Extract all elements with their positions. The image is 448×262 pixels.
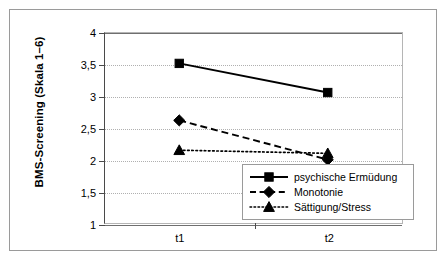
legend-item-label: psychische Ermüdung: [294, 171, 397, 183]
x-axis-tick: [255, 223, 256, 229]
y-axis-tick-label: 2: [90, 155, 96, 167]
y-axis-tick: [99, 225, 105, 226]
data-point-marker: [324, 88, 332, 96]
series-line: [179, 150, 328, 153]
data-point-marker: [175, 59, 183, 67]
y-axis-tick-label: 1: [90, 219, 96, 231]
y-axis-tick-label: 2,5: [81, 123, 96, 135]
legend-item-label: Monotonie: [294, 186, 343, 198]
data-point-marker: [322, 148, 333, 158]
legend-item: psychische Ermüdung: [249, 169, 407, 184]
legend-swatch-icon: [249, 200, 289, 214]
series-monotonie: [174, 115, 334, 165]
figure-frame: BMS-Screening (Skala 1–6) 11,522,533,54 …: [9, 9, 437, 251]
legend-item: Sättigung/Stress: [249, 199, 407, 214]
data-point-marker: [174, 115, 185, 126]
series-line: [179, 63, 328, 92]
gridline: [105, 225, 402, 226]
y-axis-tick-label: 4: [90, 27, 96, 39]
series-psychische-erm-dung: [175, 59, 332, 96]
x-axis-tick-label-t1: t1: [175, 232, 184, 244]
chart-legend: psychische ErmüdungMonotonieSättigung/St…: [242, 164, 414, 220]
line-chart: BMS-Screening (Skala 1–6) 11,522,533,54 …: [10, 10, 438, 252]
series-s-ttigung-stress: [174, 145, 333, 158]
legend-swatch-icon: [249, 185, 289, 199]
y-axis-tick-label: 3: [90, 91, 96, 103]
series-line: [179, 120, 328, 159]
y-axis-tick-label: 1,5: [81, 187, 96, 199]
y-axis-tick-label: 3,5: [81, 59, 96, 71]
legend-swatch-icon: [249, 170, 289, 184]
legend-item-label: Sättigung/Stress: [294, 201, 371, 213]
y-axis-title: BMS-Screening (Skala 1–6): [33, 27, 45, 197]
legend-item: Monotonie: [249, 184, 407, 199]
x-axis-tick-label-t2: t2: [325, 232, 334, 244]
